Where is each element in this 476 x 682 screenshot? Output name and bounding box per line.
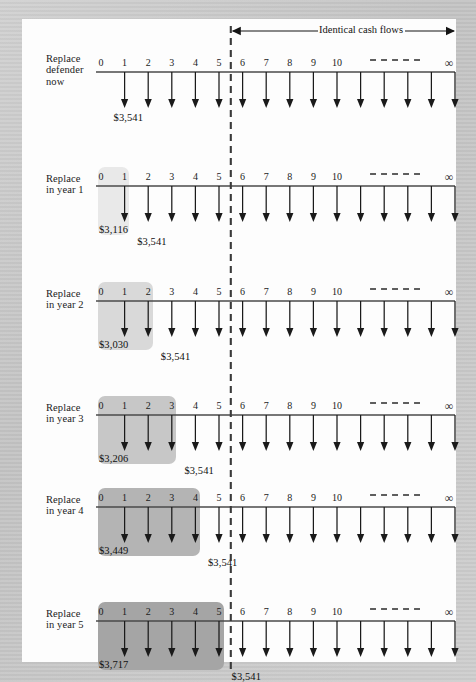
cash-flow-arrow-replace-defender-now-9 <box>310 72 317 108</box>
cash-flow-arrow-replace-in-year-2-9 <box>310 301 317 337</box>
cash-flow-arrow-replace-defender-now-10 <box>333 72 340 108</box>
cash-flow-arrow-replace-in-year-2-12 <box>381 301 388 337</box>
cash-flow-arrow-replace-in-year-3-5 <box>215 415 222 451</box>
cash-flow-arrow-replace-in-year-5-15 <box>451 621 458 657</box>
cash-flow-arrow-replace-in-year-1-9 <box>310 186 317 222</box>
cash-flow-arrow-replace-in-year-4-10 <box>333 507 340 543</box>
cash-flow-arrow-replace-in-year-1-1 <box>121 186 128 222</box>
cash-flow-arrow-replace-in-year-5-3 <box>168 621 175 657</box>
cash-flow-arrow-replace-in-year-4-15 <box>451 507 458 543</box>
cash-flow-arrow-replace-defender-now-15 <box>451 72 458 108</box>
cash-flow-arrow-replace-in-year-2-3 <box>168 301 175 337</box>
cash-flow-arrow-replace-in-year-5-12 <box>381 621 388 657</box>
cash-flow-arrow-replace-in-year-4-1 <box>121 507 128 543</box>
cash-flow-arrow-replace-in-year-1-6 <box>239 186 246 222</box>
cash-flow-arrow-replace-in-year-5-9 <box>310 621 317 657</box>
cash-flow-arrow-replace-in-year-5-14 <box>428 621 435 657</box>
cash-flow-arrow-replace-in-year-1-8 <box>286 186 293 222</box>
cash-flow-arrow-replace-in-year-1-13 <box>404 186 411 222</box>
cash-flow-arrow-replace-in-year-4-3 <box>168 507 175 543</box>
cash-flow-arrow-replace-defender-now-5 <box>215 72 222 108</box>
cash-flow-arrow-replace-in-year-3-3 <box>168 415 175 451</box>
cash-flow-arrow-replace-in-year-3-11 <box>357 415 364 451</box>
cash-flow-arrow-replace-in-year-1-7 <box>263 186 270 222</box>
cash-flow-arrow-replace-in-year-4-12 <box>381 507 388 543</box>
cash-flow-arrow-replace-in-year-2-6 <box>239 301 246 337</box>
cash-flow-arrow-replace-in-year-2-15 <box>451 301 458 337</box>
cash-flow-arrow-replace-in-year-2-10 <box>333 301 340 337</box>
cash-flow-arrow-replace-in-year-4-4 <box>192 507 199 543</box>
header-arrow-left-head <box>232 27 241 35</box>
cash-flow-diagram: Identical cash flows012345678910∞Replace… <box>0 0 476 682</box>
cash-flow-arrow-replace-in-year-3-4 <box>192 415 199 451</box>
cash-flow-arrow-replace-in-year-1-4 <box>192 186 199 222</box>
cash-flow-arrow-replace-in-year-3-13 <box>404 415 411 451</box>
cash-flow-arrow-replace-in-year-1-10 <box>333 186 340 222</box>
cash-flow-arrow-replace-in-year-3-8 <box>286 415 293 451</box>
cash-flow-arrow-replace-defender-now-12 <box>381 72 388 108</box>
cash-flow-arrow-replace-in-year-5-6 <box>239 621 246 657</box>
cash-flow-arrow-replace-in-year-1-3 <box>168 186 175 222</box>
cash-flow-arrow-replace-in-year-5-8 <box>286 621 293 657</box>
cash-flow-arrow-replace-in-year-2-5 <box>215 301 222 337</box>
cash-flow-arrow-replace-defender-now-3 <box>168 72 175 108</box>
header-arrow-right-head <box>446 27 455 35</box>
cash-flow-arrow-replace-in-year-2-1 <box>121 301 128 337</box>
diagram-vectors <box>0 0 476 682</box>
cash-flow-arrow-replace-in-year-5-7 <box>263 621 270 657</box>
cash-flow-arrow-replace-in-year-3-12 <box>381 415 388 451</box>
cash-flow-arrow-replace-in-year-5-11 <box>357 621 364 657</box>
cash-flow-arrow-replace-defender-now-6 <box>239 72 246 108</box>
cash-flow-arrow-replace-in-year-5-4 <box>192 621 199 657</box>
cash-flow-arrow-replace-in-year-2-14 <box>428 301 435 337</box>
cash-flow-arrow-replace-in-year-2-8 <box>286 301 293 337</box>
cash-flow-arrow-replace-in-year-1-2 <box>145 186 152 222</box>
cash-flow-arrow-replace-in-year-3-6 <box>239 415 246 451</box>
cash-flow-arrow-replace-in-year-5-5 <box>215 621 222 657</box>
cash-flow-arrow-replace-in-year-3-2 <box>145 415 152 451</box>
cash-flow-arrow-replace-in-year-2-2 <box>145 301 152 337</box>
cash-flow-arrow-replace-in-year-2-11 <box>357 301 364 337</box>
cash-flow-arrow-replace-in-year-5-13 <box>404 621 411 657</box>
cash-flow-arrow-replace-defender-now-7 <box>263 72 270 108</box>
cash-flow-arrow-replace-in-year-4-7 <box>263 507 270 543</box>
cash-flow-arrow-replace-in-year-4-8 <box>286 507 293 543</box>
cash-flow-arrow-replace-in-year-3-9 <box>310 415 317 451</box>
cash-flow-arrow-replace-in-year-1-14 <box>428 186 435 222</box>
cash-flow-arrow-replace-in-year-3-10 <box>333 415 340 451</box>
cash-flow-arrow-replace-in-year-3-15 <box>451 415 458 451</box>
cash-flow-arrow-replace-defender-now-13 <box>404 72 411 108</box>
cash-flow-arrow-replace-in-year-4-14 <box>428 507 435 543</box>
cash-flow-arrow-replace-defender-now-4 <box>192 72 199 108</box>
cash-flow-arrow-replace-defender-now-1 <box>121 72 128 108</box>
cash-flow-arrow-replace-in-year-4-13 <box>404 507 411 543</box>
cash-flow-arrow-replace-in-year-3-14 <box>428 415 435 451</box>
cash-flow-arrow-replace-in-year-5-10 <box>333 621 340 657</box>
cash-flow-arrow-replace-in-year-3-7 <box>263 415 270 451</box>
cash-flow-arrow-replace-in-year-5-2 <box>145 621 152 657</box>
cash-flow-arrow-replace-in-year-2-7 <box>263 301 270 337</box>
cash-flow-arrow-replace-defender-now-2 <box>145 72 152 108</box>
cash-flow-arrow-replace-in-year-1-15 <box>451 186 458 222</box>
cash-flow-arrow-replace-in-year-2-4 <box>192 301 199 337</box>
cash-flow-arrow-replace-defender-now-14 <box>428 72 435 108</box>
cash-flow-arrow-replace-in-year-4-6 <box>239 507 246 543</box>
cash-flow-arrow-replace-in-year-4-2 <box>145 507 152 543</box>
cash-flow-arrow-replace-defender-now-11 <box>357 72 364 108</box>
cash-flow-arrow-replace-in-year-4-9 <box>310 507 317 543</box>
cash-flow-arrow-replace-in-year-5-1 <box>121 621 128 657</box>
cash-flow-arrow-replace-in-year-1-12 <box>381 186 388 222</box>
cash-flow-arrow-replace-in-year-4-5 <box>215 507 222 543</box>
cash-flow-arrow-replace-in-year-2-13 <box>404 301 411 337</box>
cash-flow-arrow-replace-in-year-1-5 <box>215 186 222 222</box>
cash-flow-arrow-replace-defender-now-8 <box>286 72 293 108</box>
cash-flow-arrow-replace-in-year-1-11 <box>357 186 364 222</box>
cash-flow-arrow-replace-in-year-3-1 <box>121 415 128 451</box>
cash-flow-arrow-replace-in-year-4-11 <box>357 507 364 543</box>
